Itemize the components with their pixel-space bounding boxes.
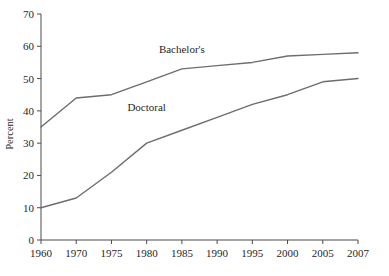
y-tick-label: 40 — [23, 105, 35, 117]
x-tick-label: 2000 — [277, 247, 300, 259]
series-annotations: Bachelor'sDoctoral — [127, 43, 204, 113]
chart-container: 010203040506070 196019701975198019851990… — [0, 0, 389, 276]
y-tick-label: 60 — [23, 40, 35, 52]
line-chart: 010203040506070 196019701975198019851990… — [0, 0, 389, 276]
x-tick-label: 1970 — [65, 247, 88, 259]
series-lines — [41, 53, 358, 208]
y-axis: 010203040506070 — [23, 8, 41, 246]
x-tick-label: 1975 — [100, 247, 123, 259]
series-label-doctoral: Doctoral — [127, 101, 165, 113]
series-line-bachelor-s — [41, 53, 358, 127]
x-tick-label: 1990 — [206, 247, 229, 259]
series-label-bachelor-s: Bachelor's — [159, 43, 205, 55]
y-tick-label: 0 — [29, 234, 35, 246]
x-tick-label: 2005 — [312, 247, 335, 259]
y-axis-title: Percent — [4, 118, 15, 150]
y-tick-label: 50 — [23, 73, 35, 85]
series-line-doctoral — [41, 79, 358, 208]
x-tick-label: 1995 — [241, 247, 264, 259]
y-tick-label: 10 — [23, 202, 35, 214]
y-tick-label: 20 — [23, 169, 35, 181]
x-tick-label: 1960 — [30, 247, 53, 259]
x-axis: 1960197019751980198519901995200020052007 — [30, 240, 370, 259]
y-tick-label: 70 — [23, 8, 35, 20]
y-tick-label: 30 — [23, 137, 35, 149]
x-tick-label: 1980 — [136, 247, 159, 259]
x-tick-label: 1985 — [171, 247, 194, 259]
x-tick-label: 2007 — [347, 247, 370, 259]
